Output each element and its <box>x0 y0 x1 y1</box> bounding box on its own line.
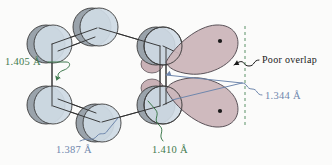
figure-canvas: 1.405 Å 1.387 Å 1.410 Å 1.344 Å Poor ove… <box>0 0 332 165</box>
label-bond-1410: 1.410 Å <box>152 145 188 156</box>
exocyclic-lobe-lower <box>166 78 238 127</box>
label-bond-1344: 1.344 Å <box>265 91 301 102</box>
leader-1405 <box>48 62 70 78</box>
orbital-diagram-svg <box>0 0 332 165</box>
orbital-disc-lower-left <box>27 86 72 124</box>
label-poor-overlap: Poor overlap <box>262 55 317 65</box>
label-bond-1387: 1.387 Å <box>56 145 92 156</box>
label-bond-1405: 1.405 Å <box>5 57 41 68</box>
orbital-disc-top <box>73 8 118 46</box>
lone-pair-dot-lower <box>218 109 222 113</box>
leader-1344-arrowhead <box>166 71 171 76</box>
lone-pair-dot-upper <box>218 39 222 43</box>
